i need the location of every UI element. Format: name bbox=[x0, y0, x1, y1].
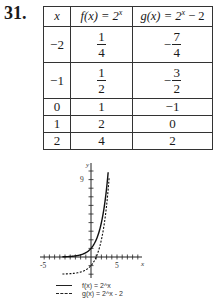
y-axis-label: y bbox=[85, 161, 90, 169]
f-curve bbox=[62, 172, 108, 257]
x-axis-label: x bbox=[140, 260, 145, 268]
axes bbox=[40, 163, 142, 278]
legend-item-g: g(x) = 2^x - 2 bbox=[56, 290, 123, 297]
legend-swatch-solid bbox=[56, 285, 72, 286]
legend-swatch-dashed bbox=[56, 293, 72, 294]
x-tick-label-neg5: -5 bbox=[40, 261, 46, 270]
graph: y x 9 -5 5 bbox=[0, 0, 217, 300]
legend-item-f: f(x) = 2^x bbox=[56, 282, 111, 289]
y-tick-label-9: 9 bbox=[80, 175, 84, 184]
x-tick-label-5: 5 bbox=[115, 261, 119, 270]
